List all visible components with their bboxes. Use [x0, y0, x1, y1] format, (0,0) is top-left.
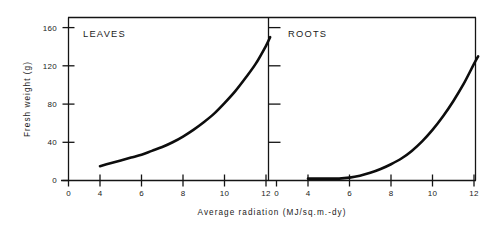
- y-tick-label-0: 0: [52, 176, 57, 185]
- x-tick-label-4: 4: [98, 189, 103, 198]
- x-tick-label-10: 10: [220, 189, 230, 198]
- x-tick-label-right-8: 8: [389, 189, 394, 198]
- chart-figure: 0 40 80 120 160 0 4 6 8 10 12: [0, 0, 499, 233]
- x-tick-label-0: 0: [66, 189, 71, 198]
- x-tick-label-right-12: 12: [469, 189, 479, 198]
- right-panel-x-ticks: 0 4 6 8 10 12: [274, 175, 479, 199]
- x-tick-label-8: 8: [181, 189, 186, 198]
- right-panel-y-ticks: [269, 28, 281, 143]
- y-tick-label-40: 40: [48, 138, 58, 147]
- leaves-curve: [100, 37, 270, 166]
- x-tick-label-6: 6: [139, 189, 144, 198]
- roots-curve: [308, 56, 478, 178]
- y-axis-title: Fresh weight (g): [23, 61, 32, 137]
- y-tick-label-120: 120: [43, 62, 57, 71]
- panel-label-leaves: LEAVES: [83, 29, 126, 39]
- x-tick-label-right-4: 4: [306, 189, 311, 198]
- x-axis-title: Average radiation (MJ/sq.m.-dy): [198, 208, 347, 217]
- x-tick-label-right-6: 6: [347, 189, 352, 198]
- left-panel-y-ticks: 0 40 80 120 160: [43, 24, 75, 186]
- chart-canvas: 0 40 80 120 160 0 4 6 8 10 12: [0, 0, 499, 233]
- y-tick-label-160: 160: [43, 24, 57, 33]
- data-curves: [100, 37, 478, 179]
- x-tick-label-right-10: 10: [428, 189, 438, 198]
- x-tick-label-right-0: 0: [274, 189, 279, 198]
- left-panel-x-ticks: 0 4 6 8 10 12: [66, 175, 271, 199]
- y-tick-label-80: 80: [48, 100, 58, 109]
- x-tick-label-12: 12: [261, 189, 271, 198]
- panel-label-roots: ROOTS: [288, 29, 327, 39]
